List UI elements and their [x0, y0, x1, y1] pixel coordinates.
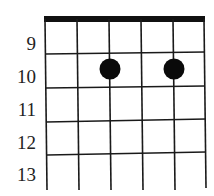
finger-dot-string-5-fret-10	[164, 59, 185, 80]
fret-label-9: 9	[0, 34, 36, 53]
fret-label-13: 13	[0, 165, 36, 184]
string-1	[45, 19, 47, 190]
fret-line-3	[46, 119, 206, 122]
fret-label-10: 10	[0, 67, 36, 86]
fret-label-11: 11	[0, 100, 36, 119]
strings	[45, 19, 206, 190]
fret-label-12: 12	[0, 133, 36, 152]
fret-line-1	[45, 52, 205, 54]
string-6	[204, 19, 206, 188]
string-2	[77, 19, 79, 190]
string-3	[109, 19, 111, 190]
nut	[44, 16, 205, 22]
string-5	[173, 19, 175, 190]
string-4	[141, 19, 143, 190]
fret-line-4	[47, 152, 206, 155]
finger-dot-string-3-fret-10	[100, 59, 121, 80]
fret-line-2	[46, 86, 205, 88]
